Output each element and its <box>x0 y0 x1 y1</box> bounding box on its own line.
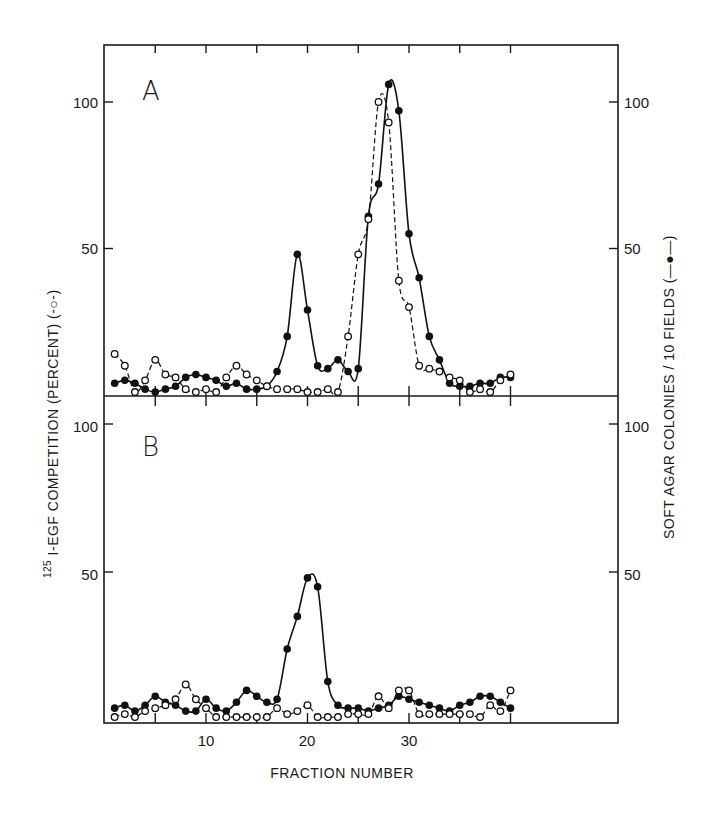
soft-agar-point <box>314 362 322 370</box>
egf-competition-point <box>416 711 423 718</box>
xtick-30: 30 <box>401 732 418 749</box>
soft-agar-point <box>182 707 190 715</box>
egf-competition-point <box>223 374 230 381</box>
soft-agar-point <box>192 371 200 379</box>
egf-competition-point <box>172 374 179 381</box>
soft-agar-point <box>172 382 180 390</box>
egf-competition-point <box>294 386 301 393</box>
egf-competition-point <box>477 714 484 721</box>
soft-agar-point <box>151 693 159 701</box>
soft-agar-point <box>497 698 505 706</box>
soft-agar-point <box>294 251 302 259</box>
egf-competition-point <box>365 711 372 718</box>
soft-agar-point <box>273 695 281 703</box>
panel-a-plot <box>111 80 514 396</box>
egf-competition-point <box>243 371 250 378</box>
soft-agar-point <box>233 379 241 387</box>
egf-competition-point <box>416 362 423 369</box>
soft-agar-point <box>253 693 261 701</box>
egf-competition-point <box>284 711 291 718</box>
soft-agar-point <box>375 704 383 712</box>
egf-competition-point <box>203 386 210 393</box>
svg-text:SOFT AGAR COLONIES / 10 FIELDS: SOFT AGAR COLONIES / 10 FIELDS (—●—) <box>661 235 677 539</box>
soft-agar-point <box>304 574 312 582</box>
egf-competition-point <box>325 386 332 393</box>
egf-competition-point <box>314 714 321 721</box>
left-axis-title-text: I-EGF COMPETITION (PERCENT) (-○-) <box>45 289 61 555</box>
egf-competition-point <box>375 99 382 106</box>
soft-agar-point <box>111 379 119 387</box>
egf-competition-point <box>406 304 413 311</box>
egf-competition-point <box>142 377 149 384</box>
soft-agar-point <box>121 701 129 709</box>
egf-competition-point <box>122 711 129 718</box>
svg-text:125 I-EGF COMPETITION (: 125 I-EGF COMPETITION (PERCENT) (-○-) <box>38 289 61 578</box>
soft-agar-point <box>223 382 231 390</box>
soft-agar-point <box>324 365 332 373</box>
soft-agar-point <box>162 385 170 393</box>
soft-agar-point <box>324 678 332 686</box>
egf-competition-point <box>233 714 240 721</box>
left-ytick-b-50: 50 <box>81 566 98 583</box>
x-axis-title: FRACTION NUMBER <box>270 765 414 781</box>
soft-agar-point <box>344 368 352 376</box>
egf-competition-point <box>152 357 159 364</box>
egf-competition-point <box>162 702 169 709</box>
soft-agar-point <box>334 356 342 364</box>
egf-competition-point <box>223 714 230 721</box>
egf-competition-point <box>253 714 260 721</box>
egf-competition-point <box>111 714 118 721</box>
right-ytick-a-50: 50 <box>624 240 641 257</box>
egf-competition-point <box>406 687 413 694</box>
egf-competition-point <box>132 714 139 721</box>
egf-competition-point <box>203 705 210 712</box>
soft-agar-point <box>182 374 190 382</box>
soft-agar-point <box>395 107 403 115</box>
egf-competition-point <box>355 251 362 258</box>
egf-competition-point <box>284 386 291 393</box>
soft-agar-point <box>354 365 362 373</box>
egf-competition-point <box>314 389 321 396</box>
egf-competition-point <box>264 714 271 721</box>
egf-competition-point <box>446 374 453 381</box>
soft-agar-point <box>141 385 149 393</box>
soft-agar-point <box>263 698 271 706</box>
egf-competition-point <box>365 216 372 223</box>
soft-agar-point <box>304 306 312 314</box>
egf-competition-point <box>213 389 220 396</box>
egf-competition-point <box>274 705 281 712</box>
soft-agar-point <box>202 374 210 382</box>
egf-competition-point <box>345 333 352 340</box>
egf-competition-point <box>477 386 484 393</box>
soft-agar-point <box>426 333 434 341</box>
soft-agar-curve <box>115 574 511 712</box>
left-axis-title: 125 I-EGF COMPETITION (PERCENT) (-○-) <box>38 289 61 578</box>
egf-competition-point <box>304 389 311 396</box>
egf-competition-point <box>396 687 403 694</box>
egf-competition-point <box>335 714 342 721</box>
egf-competition-point <box>182 386 189 393</box>
soft-agar-point <box>486 379 494 387</box>
egf-competition-point <box>335 389 342 396</box>
soft-agar-curve <box>115 80 511 392</box>
right-ytick-b-50: 50 <box>624 566 641 583</box>
egf-competition-point <box>426 711 433 718</box>
soft-agar-point <box>192 707 200 715</box>
egf-competition-point <box>385 119 392 126</box>
soft-agar-point <box>212 704 220 712</box>
soft-agar-point <box>426 701 434 709</box>
soft-agar-point <box>111 704 119 712</box>
soft-agar-point <box>283 333 291 341</box>
egf-competition-point <box>142 708 149 715</box>
soft-agar-point <box>202 695 210 703</box>
egf-competition-point <box>264 383 271 390</box>
left-ytick-a-50: 50 <box>81 240 98 257</box>
egf-competition-curve <box>115 94 511 396</box>
egf-competition-point <box>497 377 504 384</box>
left-ytick-b-100: 100 <box>73 418 98 435</box>
egf-competition-point <box>507 371 514 378</box>
soft-agar-point <box>415 698 423 706</box>
egf-competition-point <box>162 371 169 378</box>
soft-agar-point <box>456 701 464 709</box>
panel-a-label: A <box>142 76 160 106</box>
